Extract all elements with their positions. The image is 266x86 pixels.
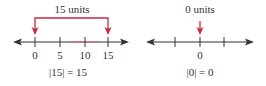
distance-bracket [35, 18, 108, 32]
tick-label-0: 0 [32, 49, 38, 61]
absolute-value-diagram: 15 units 0 5 10 15 |15| = 15 0 units 0 |… [0, 0, 266, 86]
tick-label-10: 10 [80, 49, 92, 61]
tick-label-0: 0 [197, 49, 203, 61]
tick-label-15: 15 [103, 49, 115, 61]
equation: |15| = 15 [49, 66, 88, 78]
right-number-line-group: 0 units 0 |0| = 0 [146, 3, 254, 78]
left-number-line-group: 15 units 0 5 10 15 |15| = 15 [13, 3, 129, 78]
tick-label-5: 5 [57, 49, 63, 61]
equation: |0| = 0 [186, 66, 214, 78]
distance-label: 0 units [185, 3, 215, 15]
distance-label: 15 units [54, 3, 89, 15]
